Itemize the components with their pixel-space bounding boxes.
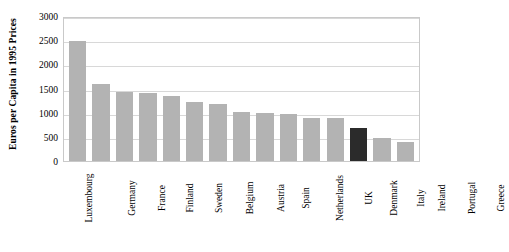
- x-axis-label-slot: Italy: [412, 163, 429, 251]
- x-axis-category-label: Germany: [127, 180, 137, 215]
- bar[interactable]: [116, 92, 133, 161]
- x-axis-label-slot: Portugal: [456, 163, 488, 251]
- y-axis-tick-label: 0: [53, 157, 58, 167]
- bar[interactable]: [256, 113, 273, 161]
- x-axis-category-label: Denmark: [389, 180, 399, 215]
- x-axis-label-slot: Finland: [175, 163, 204, 251]
- x-axis-category-label: UK: [364, 191, 374, 205]
- bar-slot: [323, 18, 346, 161]
- y-axis-tick-labels: 300025002000150010005000: [26, 11, 61, 163]
- bar[interactable]: [69, 41, 86, 161]
- bar[interactable]: [280, 114, 297, 161]
- x-axis-category-label: Sweden: [214, 183, 224, 213]
- bar-slot: [160, 18, 183, 161]
- bar-slot: [394, 18, 417, 161]
- y-axis-tick-label: 1500: [39, 85, 58, 95]
- bar-slot: [89, 18, 112, 161]
- x-axis-label-slot: Sweden: [204, 163, 234, 251]
- bar[interactable]: [350, 128, 367, 161]
- bar[interactable]: [163, 96, 180, 161]
- y-axis-tick-label: 1000: [39, 109, 58, 119]
- bar-slot: [253, 18, 276, 161]
- x-axis-label-slot: UK: [362, 163, 376, 251]
- x-axis-category-label: Luxembourg: [84, 174, 94, 223]
- x-axis-category-label: Belgium: [246, 182, 256, 215]
- y-axis-tick-label: 2000: [39, 60, 58, 70]
- x-axis-label-slot: Belgium: [234, 163, 267, 251]
- x-axis-category-label: Ireland: [437, 185, 447, 212]
- bar[interactable]: [373, 138, 390, 161]
- x-axis-label-slot: Netherlands: [317, 163, 363, 251]
- x-axis-label-slot: Germany: [114, 163, 149, 251]
- bar-slot: [300, 18, 323, 161]
- y-axis-tick-label: 3000: [39, 12, 58, 22]
- bar-slot: [136, 18, 159, 161]
- bar[interactable]: [397, 142, 414, 161]
- y-axis-tick-label: 500: [44, 133, 58, 143]
- bar-slot: [66, 18, 89, 161]
- x-axis-category-label: Spain: [301, 187, 311, 209]
- x-axis-category-labels: LuxembourgGermanyFranceFinlandSwedenBelg…: [63, 163, 420, 251]
- bar[interactable]: [139, 93, 156, 161]
- bar[interactable]: [233, 112, 250, 161]
- bar-slot: [230, 18, 253, 161]
- x-axis-category-label: Portugal: [467, 182, 477, 214]
- y-axis-tick-label: 2500: [39, 36, 58, 46]
- x-axis-category-label: Netherlands: [335, 175, 345, 221]
- y-axis-title: Euros per Capita in 1995 Prices: [0, 0, 26, 168]
- x-axis-label-slot: Greece: [488, 163, 509, 251]
- x-axis-label-slot: Denmark: [376, 163, 411, 251]
- bars-container: [64, 18, 419, 161]
- x-axis-label-slot: Austria: [267, 163, 295, 251]
- bar[interactable]: [92, 84, 109, 161]
- x-axis-category-label: Greece: [497, 185, 507, 212]
- plot-area: [63, 17, 420, 162]
- x-axis-label-slot: France: [149, 163, 175, 251]
- x-axis-label-slot: Spain: [295, 163, 317, 251]
- x-axis-category-label: Italy: [415, 189, 425, 206]
- bar[interactable]: [303, 118, 320, 161]
- bar-slot: [370, 18, 393, 161]
- x-axis-category-label: Austria: [276, 184, 286, 212]
- x-axis-label-slot: Ireland: [429, 163, 456, 251]
- y-axis-title-text: Euros per Capita in 1995 Prices: [8, 18, 18, 150]
- bar-slot: [113, 18, 136, 161]
- x-axis-category-label: Finland: [185, 183, 195, 212]
- bar-slot: [206, 18, 229, 161]
- bar-slot: [183, 18, 206, 161]
- bar-slot: [347, 18, 370, 161]
- bar[interactable]: [209, 104, 226, 161]
- bar[interactable]: [186, 102, 203, 161]
- bar-slot: [277, 18, 300, 161]
- x-axis-label-slot: Luxembourg: [65, 163, 114, 251]
- bar[interactable]: [327, 118, 344, 161]
- x-axis-category-label: France: [157, 185, 167, 211]
